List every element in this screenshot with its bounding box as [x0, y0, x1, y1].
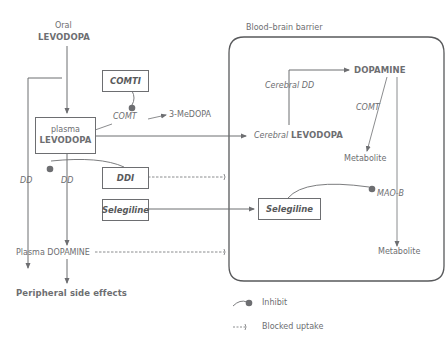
cerebral-dd-label: Cerebral DD — [265, 82, 314, 90]
plasma-levodopa-label: LEVODOPA — [40, 136, 92, 145]
cerebral-levodopa-label: LEVODOPA — [291, 131, 343, 140]
legend-inhibit-label: Inhibit — [262, 299, 287, 307]
comti-label: COMTI — [110, 76, 141, 86]
comt-to-3medopa-arrow — [148, 115, 166, 119]
selegiline-outer-box: Selegiline — [102, 199, 149, 221]
cerebral-prefix-label: Cerebral — [254, 132, 288, 140]
selegiline-inhibit-curve — [288, 184, 369, 198]
comti-box: COMTI — [102, 70, 149, 92]
comt-central-label: COMT — [356, 104, 380, 112]
comt-peripheral-label: COMT — [113, 113, 137, 121]
ddi-blocked-uptake-cap — [224, 174, 225, 180]
legend-blocked-uptake-label: Blocked uptake — [262, 323, 323, 331]
legend-blocked-cap — [245, 324, 246, 330]
dopamine-blocked-uptake-cap — [224, 249, 225, 255]
selegiline-outer-label: Selegiline — [102, 205, 149, 215]
cerebral-dd-arrow — [289, 70, 349, 125]
selegiline-inner-box: Selegiline — [258, 198, 321, 220]
dopamine-label: DOPAMINE — [354, 66, 406, 75]
plasma-dopamine-label: Plasma DOPAMINE — [16, 249, 90, 257]
legend-inhibit-dot — [246, 300, 253, 307]
ddi-inhibit-curve — [51, 159, 124, 167]
legend-inhibit-curve — [233, 301, 247, 306]
mao-b-inhibit-dot — [369, 186, 376, 193]
ddi-label: DDI — [117, 173, 134, 183]
plasma-comt-line — [95, 124, 112, 130]
metabolite-mao-label: Metabolite — [378, 248, 420, 256]
dopamine-to-comt-metabolite-arrow — [367, 77, 387, 151]
ddi-box: DDI — [102, 167, 149, 189]
blood-brain-barrier-label: Blood–brain barrier — [246, 24, 323, 32]
peripheral-side-effects-label: Peripheral side effects — [16, 289, 127, 298]
mao-b-label: MAO-B — [377, 190, 404, 198]
plasma-label: plasma — [51, 126, 80, 134]
ddi-inhibit-dot — [47, 166, 54, 173]
comti-inhibit-dot — [129, 105, 136, 112]
blood-brain-barrier-boundary — [229, 37, 444, 281]
plasma-levodopa-box: plasma LEVODOPA — [35, 117, 96, 154]
dd-right-label: DD — [61, 177, 73, 185]
oral-branch-line — [28, 78, 62, 268]
oral-label: Oral — [55, 22, 72, 30]
selegiline-inner-label: Selegiline — [266, 204, 313, 214]
dd-left-label: DD — [20, 177, 32, 185]
metabolite-comt-label: Metabolite — [344, 155, 386, 163]
oral-levodopa-label: LEVODOPA — [38, 33, 90, 42]
3-medopa-label: 3-MeDOPA — [169, 111, 211, 119]
comti-inhibit-curve — [132, 91, 134, 105]
